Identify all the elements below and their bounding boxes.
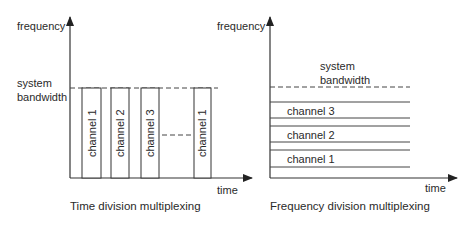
fdm-bandwidth-label-line2: bandwidth [320, 74, 370, 86]
tdm-slot-label: channel 2 [114, 109, 126, 157]
fdm-panel: frequency time system bandwidth channel … [217, 17, 457, 212]
fdm-y-axis-label: frequency [217, 20, 266, 32]
tdm-x-axis-label: time [217, 184, 238, 196]
fdm-x-axis-label: time [425, 182, 446, 194]
tdm-slot-label: channel 1 [196, 109, 208, 157]
fdm-band-label: channel 2 [287, 129, 335, 141]
fdm-bandwidth-label-line1: system [320, 60, 355, 72]
tdm-y-axis-label: frequency [17, 20, 66, 32]
tdm-panel: frequency time system bandwidth channel … [17, 17, 252, 212]
tdm-bandwidth-label-line1: system [17, 77, 52, 89]
fdm-band-label: channel 1 [287, 153, 335, 165]
fdm-band-label: channel 3 [287, 105, 335, 117]
tdm-slot-label: channel 3 [144, 109, 156, 157]
tdm-slot-label: channel 1 [86, 109, 98, 157]
tdm-caption: Time division multiplexing [70, 200, 201, 212]
multiplexing-diagram: frequency time system bandwidth channel … [0, 0, 474, 226]
fdm-caption: Frequency division multiplexing [270, 200, 430, 212]
tdm-bandwidth-label-line2: bandwidth [17, 91, 67, 103]
